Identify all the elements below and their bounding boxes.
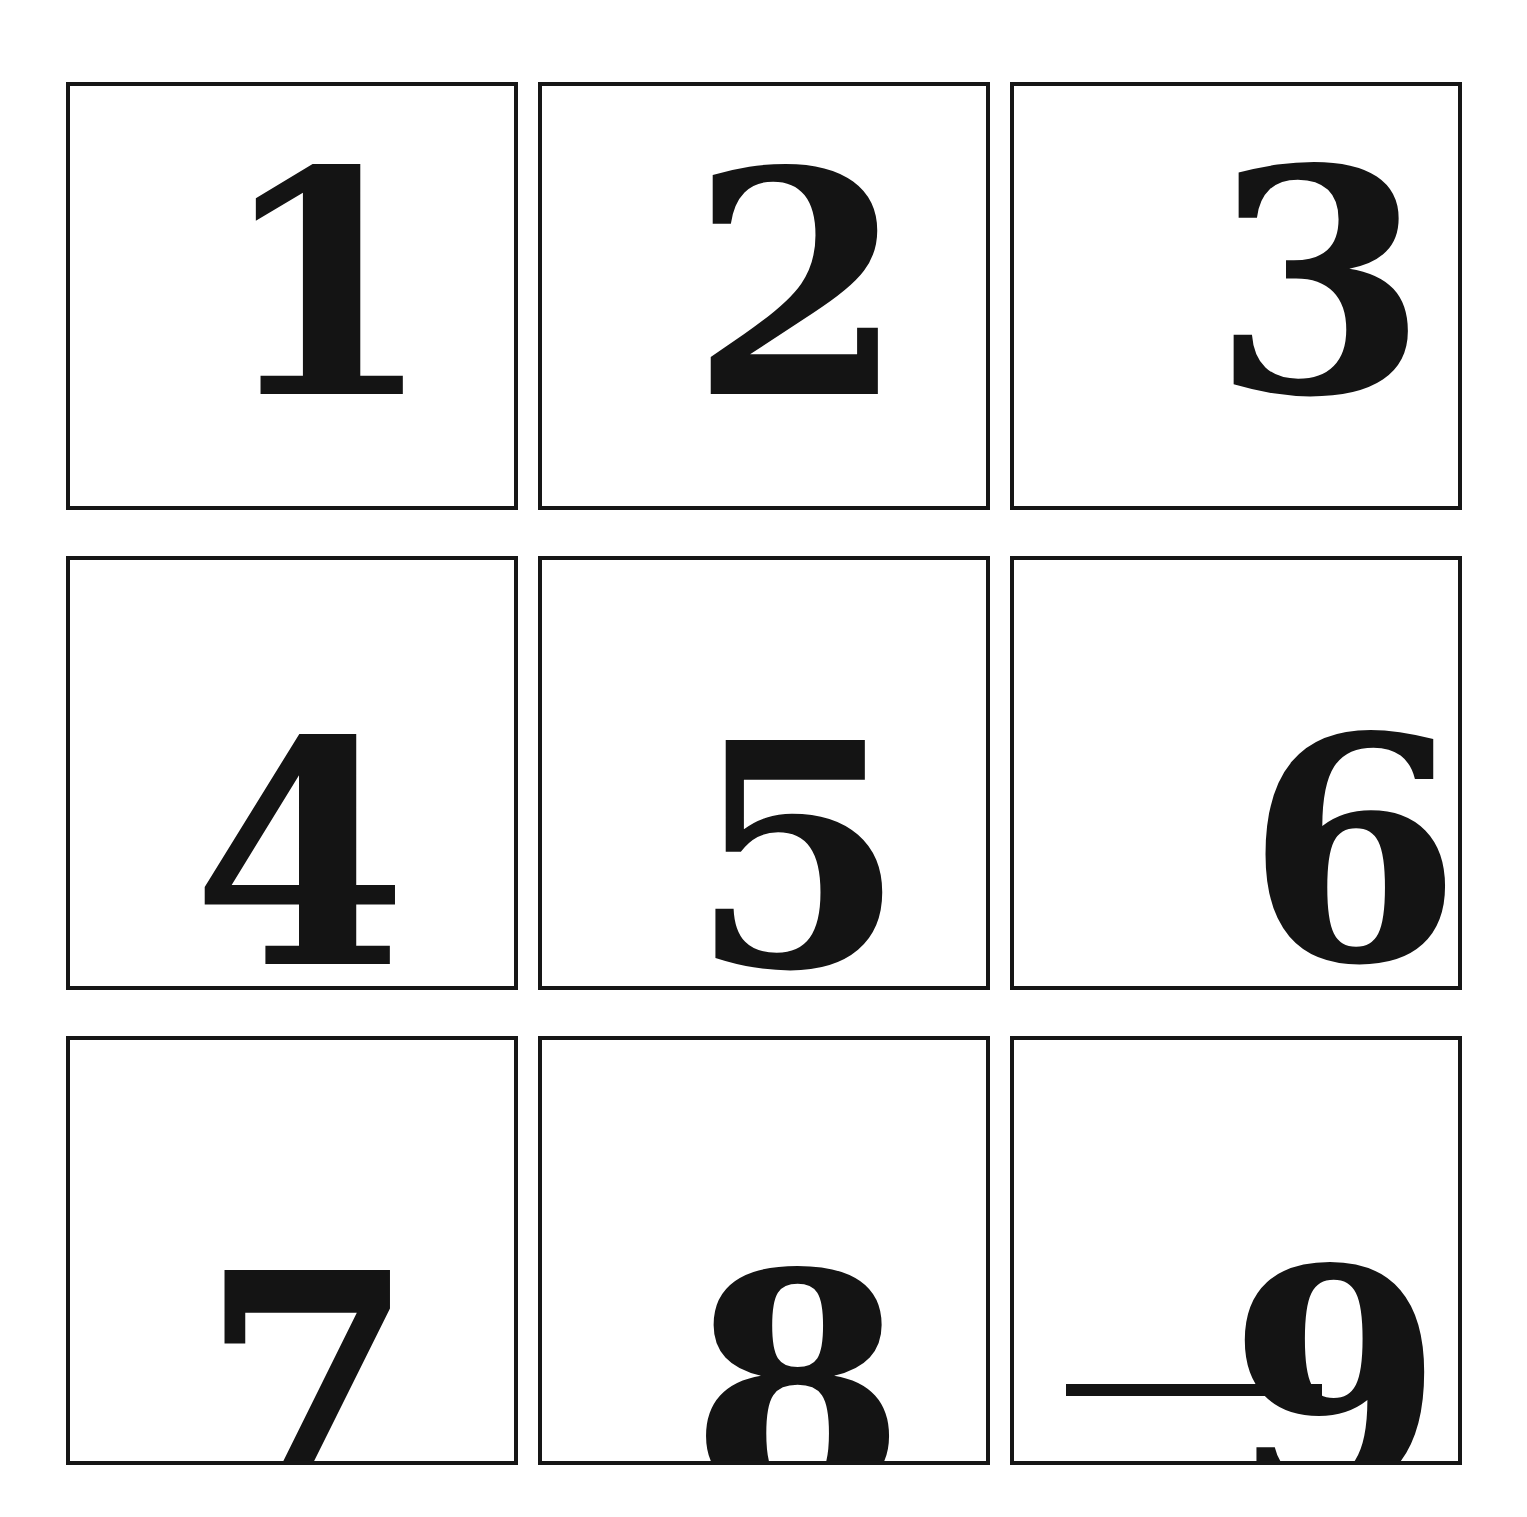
digit-glyph-9: 9 <box>1228 1228 1444 1465</box>
digit-glyph-6: 6 <box>1246 696 1462 990</box>
grid-cell-5[interactable]: 5 <box>538 556 990 990</box>
grid-cell-8[interactable]: 8 <box>538 1036 990 1465</box>
grid-cell-9[interactable]: 9 <box>1010 1036 1462 1465</box>
digit-glyph-7: 7 <box>200 1232 416 1465</box>
grid-cell-1[interactable]: 1 <box>66 82 518 510</box>
digit-glyph-2: 2 <box>690 130 906 440</box>
number-grid: 1 2 3 4 5 6 7 8 9 <box>66 82 1462 1465</box>
grid-cell-6[interactable]: 6 <box>1010 556 1462 990</box>
digit-glyph-5: 5 <box>690 702 906 990</box>
grid-cell-4[interactable]: 4 <box>66 556 518 990</box>
grid-cell-2[interactable]: 2 <box>538 82 990 510</box>
digit-glyph-8: 8 <box>690 1232 906 1465</box>
digit-glyph-4: 4 <box>192 700 408 990</box>
digit-glyph-3: 3 <box>1212 128 1428 438</box>
digit-glyph-1: 1 <box>218 130 434 440</box>
underline-mark-icon <box>1066 1384 1322 1396</box>
grid-cell-3[interactable]: 3 <box>1010 82 1462 510</box>
grid-cell-7[interactable]: 7 <box>66 1036 518 1465</box>
number-grid-sheet: 1 2 3 4 5 6 7 8 9 <box>0 0 1527 1517</box>
